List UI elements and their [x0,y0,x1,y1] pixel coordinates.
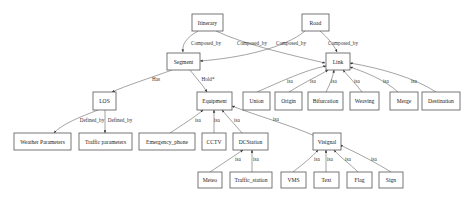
edge-label: isa [327,156,333,162]
node-label: Equipment [202,98,227,104]
node-sign: Sign [379,172,403,188]
edge-label: isa [234,117,240,123]
edge-label: isa [371,156,377,162]
edge-cctv-equipment: isa [214,110,221,133]
node-vms: VMS [281,172,306,188]
edge-meteo-dcstation: isa [210,150,243,172]
node-origin: Origin [275,92,302,110]
node-destination: Destination [422,92,460,110]
node-label: Sign [386,177,396,183]
node-itinerary: Itinerary [192,14,223,31]
class-diagram: Composed_by Composed_by Composed_by Comp… [0,0,471,202]
node-los: LOS [93,92,116,110]
node-label: Destination [428,98,454,104]
node-bifurcation: Bifurcation [308,92,343,110]
edge-label: Composed_by [276,40,306,46]
edge-label: isa [235,156,241,162]
node-label: Traffic_station [235,177,268,183]
node-visignal: Visignal [313,133,341,150]
node-label: DCStation [239,139,263,145]
node-merge: Merge [390,92,418,110]
node-label: Meteo [203,177,217,183]
node-dcstation: DCStation [233,133,268,150]
edge-label: isa [310,78,316,84]
edge-label: Composed_by [237,40,267,46]
edge-trafficstation-dcstation: isa [252,150,260,172]
edge-label: Defined_by [108,117,133,123]
node-flag: Flag [347,172,372,188]
edge-itinerary-segment: Composed_by [183,31,222,52]
node-equipment: Equipment [197,92,232,110]
node-label: Weather Parameters [20,139,65,145]
edge-segment-los: Has [112,70,172,92]
node-label: Segment [174,59,194,65]
edge-label: Defined_by [80,117,105,123]
edge-label: isa [195,117,201,123]
node-label: Merge [397,98,412,104]
node-label: Origin [281,98,296,104]
node-link: Link [326,53,350,70]
node-label: Emergency_phone [146,139,188,145]
node-traffic-station: Traffic_station [230,172,272,188]
node-label: Union [250,98,264,104]
node-weaving: Weaving [350,92,379,110]
edge-label: isa [411,78,417,84]
node-road: Road [302,14,329,31]
edge-label: isa [273,116,279,122]
edge-los-weather: Defined_by [54,110,105,133]
node-label: CCTV [207,139,222,145]
node-traffic-parameters: Traffic parameters [79,133,132,150]
edge-label: Composed_by [191,40,221,46]
node-label: Itinerary [198,20,217,26]
node-union: Union [243,92,270,110]
node-weather-parameters: Weather Parameters [14,133,71,150]
node-label: Traffic parameters [85,139,126,145]
node-text: Text [314,172,339,188]
node-emergency-phone: Emergency_phone [139,133,195,150]
edge-label: isa [354,78,360,84]
node-label: Weaving [355,98,375,104]
node-label: Link [333,59,344,65]
edge-segment-equipment: Hold* [190,70,215,92]
edge-label: isa [331,78,337,84]
edge-weaving-link: isa [343,70,362,92]
edge-label: Has [152,76,160,82]
node-label: Text [322,177,332,183]
edge-visignal-equipment: isa [232,106,315,136]
node-segment: Segment [167,53,200,70]
node-meteo: Meteo [198,172,222,188]
node-label: LOS [99,98,110,104]
edge-emergency-equipment: isa [170,110,203,133]
edge-itinerary-link: Composed_by [216,31,325,63]
edge-label: Hold* [202,76,215,82]
node-label: Road [310,20,322,26]
node-label: Visignal [318,139,337,145]
edge-road-segment: Composed_by [200,31,306,61]
edge-label: isa [314,156,320,162]
edge-text-visignal: isa [326,150,334,172]
edge-label: isa [345,156,351,162]
edge-bifurcation-link: isa [326,70,338,92]
edge-label: isa [214,117,220,123]
edge-origin-link: isa [289,70,328,92]
edge-label: Composed_by [328,40,358,46]
edge-label: isa [287,78,293,84]
edge-vms-visignal: isa [293,150,321,172]
edge-label: isa [383,78,389,84]
node-cctv: CCTV [202,133,226,150]
edge-dcstation-equipment: isa [222,110,242,133]
node-label: VMS [287,177,299,183]
node-label: Bifurcation [313,98,339,104]
edge-flag-visignal: isa [334,150,358,172]
node-label: Flag [355,177,365,183]
edge-label: isa [253,156,259,162]
edge-road-link: Composed_by [320,31,358,52]
edge-los-traffic: Defined_by [105,110,133,133]
